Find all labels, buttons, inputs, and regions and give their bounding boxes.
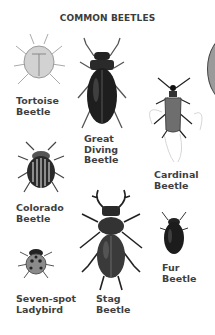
page-title: COMMON BEETLES — [0, 13, 215, 23]
ladybird-icon — [16, 242, 56, 282]
tortoise-beetle-icon — [12, 32, 67, 92]
beetle-label: Tortoise Beetle — [16, 96, 59, 117]
great-diving-beetle-icon — [72, 36, 132, 136]
beetle-label: Fur Beetle — [162, 263, 196, 284]
cardinal-beetle-icon — [144, 74, 204, 164]
partial-circle-illustration — [207, 36, 215, 102]
fur-beetle-icon — [156, 210, 192, 260]
beetle-label: Seven-spot Ladybird — [16, 294, 76, 315]
colorado-beetle-icon — [14, 136, 68, 198]
stag-beetle-icon — [72, 186, 150, 294]
beetle-label: Stag Beetle — [96, 294, 130, 315]
beetle-label: Cardinal Beetle — [154, 170, 199, 191]
beetle-label: Great Diving Beetle — [84, 134, 118, 166]
beetle-label: Colorado Beetle — [16, 203, 64, 224]
